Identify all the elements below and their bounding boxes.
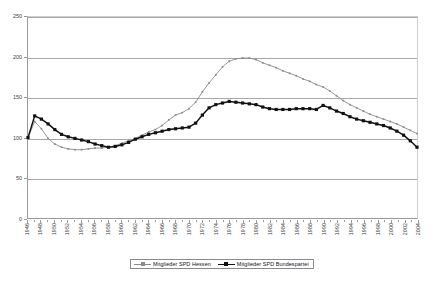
x-tick-label: 1958 bbox=[105, 223, 111, 235]
x-tick-minor bbox=[384, 220, 385, 222]
data-point bbox=[53, 128, 56, 131]
data-point bbox=[409, 130, 411, 132]
x-tick-label: 2000 bbox=[388, 223, 394, 235]
data-point bbox=[301, 107, 304, 110]
data-point bbox=[389, 126, 392, 129]
x-tick-label: 1946 bbox=[24, 223, 30, 235]
data-point bbox=[295, 75, 297, 77]
data-point bbox=[174, 127, 177, 130]
data-point bbox=[349, 104, 351, 106]
data-point bbox=[269, 64, 271, 66]
y-tick-label: 150 bbox=[13, 94, 22, 100]
x-tick-label: 1976 bbox=[226, 223, 232, 235]
data-point bbox=[241, 101, 244, 104]
data-point bbox=[34, 121, 36, 123]
x-tick-label: 1950 bbox=[51, 223, 57, 235]
x-tick-minor bbox=[61, 220, 62, 222]
data-point bbox=[187, 126, 190, 129]
x-tick-minor bbox=[263, 220, 264, 222]
data-point bbox=[168, 119, 170, 121]
data-point bbox=[47, 122, 50, 125]
data-point bbox=[308, 107, 311, 110]
data-point bbox=[194, 122, 197, 125]
data-point bbox=[80, 138, 83, 141]
data-point bbox=[363, 110, 365, 112]
x-tick-minor bbox=[182, 220, 183, 222]
data-point bbox=[348, 115, 351, 118]
data-point bbox=[127, 141, 130, 144]
data-point bbox=[234, 101, 237, 104]
data-point bbox=[369, 113, 371, 115]
data-point bbox=[167, 128, 170, 131]
data-point bbox=[262, 62, 264, 64]
data-point bbox=[362, 119, 365, 122]
data-point bbox=[254, 103, 257, 106]
x-tick-minor bbox=[101, 220, 102, 222]
data-point bbox=[275, 67, 277, 69]
data-point bbox=[67, 135, 70, 138]
x-tick-label: 1970 bbox=[186, 223, 192, 235]
data-point bbox=[409, 139, 412, 142]
x-tick-label: 1994 bbox=[348, 223, 354, 235]
data-point bbox=[26, 136, 29, 139]
legend-key-hessen bbox=[134, 261, 151, 267]
data-point bbox=[328, 106, 331, 109]
x-tick-label: 1992 bbox=[334, 223, 340, 235]
data-point bbox=[148, 131, 150, 133]
x-tick-minor bbox=[169, 220, 170, 222]
x-tick-label: 1962 bbox=[132, 223, 138, 235]
data-point bbox=[281, 108, 284, 111]
series-layer bbox=[28, 17, 417, 218]
data-point bbox=[208, 82, 210, 84]
data-point bbox=[335, 109, 338, 112]
data-point bbox=[100, 144, 103, 147]
data-point bbox=[342, 112, 345, 115]
x-tick-label: 1956 bbox=[91, 223, 97, 235]
y-tick-label: 50 bbox=[16, 175, 22, 181]
data-point bbox=[214, 103, 217, 106]
data-point bbox=[181, 126, 184, 129]
x-tick-label: 1952 bbox=[64, 223, 70, 235]
x-tick-minor bbox=[34, 220, 35, 222]
data-point bbox=[161, 130, 164, 133]
data-point bbox=[93, 142, 96, 145]
data-point bbox=[140, 135, 143, 138]
data-point bbox=[73, 137, 76, 140]
x-tick-minor bbox=[142, 220, 143, 222]
x-tick-label: 1974 bbox=[213, 223, 219, 235]
data-point bbox=[228, 60, 230, 62]
data-point bbox=[120, 143, 123, 146]
data-point bbox=[342, 100, 344, 102]
x-tick-label: 1986 bbox=[294, 223, 300, 235]
x-tick-label: 1978 bbox=[240, 223, 246, 235]
data-point bbox=[275, 108, 278, 111]
y-tick-label: 200 bbox=[13, 54, 22, 60]
legend-item-hessen: Mitglieder SPD Hessen bbox=[134, 261, 211, 267]
series-line bbox=[28, 101, 417, 147]
x-tick-minor bbox=[317, 220, 318, 222]
data-point bbox=[355, 118, 358, 121]
data-point bbox=[295, 107, 298, 110]
data-point bbox=[415, 146, 418, 149]
x-tick-label: 1984 bbox=[280, 223, 286, 235]
data-point bbox=[329, 90, 331, 92]
data-point bbox=[309, 80, 311, 82]
x-tick-label: 1996 bbox=[361, 223, 367, 235]
data-point bbox=[242, 57, 244, 59]
data-point bbox=[201, 113, 204, 116]
chart-legend: Mitglieder SPD Hessen Mitglieder SPD Bun… bbox=[130, 259, 314, 269]
data-point bbox=[396, 123, 398, 125]
data-point bbox=[215, 74, 217, 76]
x-tick-minor bbox=[411, 220, 412, 222]
x-tick-label: 1954 bbox=[78, 223, 84, 235]
data-point bbox=[81, 149, 83, 151]
x-tick-minor bbox=[196, 220, 197, 222]
data-point bbox=[87, 140, 90, 143]
data-point bbox=[416, 133, 418, 135]
data-point bbox=[188, 108, 190, 110]
data-point bbox=[389, 121, 391, 123]
data-point bbox=[336, 95, 338, 97]
data-point bbox=[60, 133, 63, 136]
x-tick-minor bbox=[115, 220, 116, 222]
x-tick-minor bbox=[88, 220, 89, 222]
